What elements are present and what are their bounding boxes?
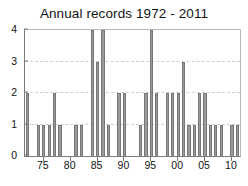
bar-1995: [150, 30, 153, 156]
bar-1999: [171, 93, 174, 156]
bar-1976: [48, 125, 51, 157]
bar-2000: [177, 93, 180, 156]
y-tick-mark-1: [24, 123, 28, 124]
x-tick-mark-85: [97, 157, 98, 161]
x-tick-mark-80: [70, 157, 71, 161]
x-tick-label-95: 95: [144, 160, 156, 171]
bar-1978: [58, 125, 61, 157]
bar-2004: [198, 93, 201, 156]
y-tick-mark-0: [24, 155, 28, 156]
x-tick-mark-00: [177, 157, 178, 161]
bar-1982: [80, 125, 83, 157]
bar-1993: [139, 125, 142, 157]
x-tick-mark-10: [231, 157, 232, 161]
y-tick-mark-4: [24, 29, 28, 30]
bar-2002: [187, 125, 190, 157]
y-tick-label-3: 3: [11, 55, 17, 66]
bar-1986: [101, 30, 104, 156]
bar-1998: [166, 93, 169, 156]
bar-2011: [236, 125, 239, 157]
x-tick-label-75: 75: [37, 160, 49, 171]
bar-1975: [42, 125, 45, 157]
x-axis: 7580859095000510: [24, 160, 241, 180]
bar-1984: [91, 30, 94, 156]
x-tick-mark-90: [123, 157, 124, 161]
bar-1981: [74, 125, 77, 157]
y-tick-mark-3: [24, 60, 28, 61]
x-tick-label-80: 80: [64, 160, 76, 171]
bar-1985: [96, 62, 99, 157]
chart-figure: Annual records 1972 - 2011 01234 7580859…: [0, 0, 248, 186]
bar-2010: [230, 125, 233, 157]
bar-1987: [107, 125, 110, 157]
bar-2007: [214, 125, 217, 157]
bar-1974: [37, 125, 40, 157]
x-tick-mark-05: [204, 157, 205, 161]
bar-1990: [123, 93, 126, 156]
y-axis: 01234: [0, 29, 22, 157]
bar-2001: [182, 62, 185, 157]
bar-2003: [193, 125, 196, 157]
y-tick-mark-2: [24, 92, 28, 93]
x-tick-label-00: 00: [171, 160, 183, 171]
x-tick-mark-95: [150, 157, 151, 161]
bar-1994: [144, 93, 147, 156]
x-tick-label-10: 10: [225, 160, 237, 171]
bar-2008: [220, 125, 223, 157]
x-tick-label-05: 05: [198, 160, 210, 171]
chart-title: Annual records 1972 - 2011: [0, 6, 248, 21]
plot-area: [24, 29, 241, 157]
x-tick-label-85: 85: [91, 160, 103, 171]
y-tick-label-2: 2: [11, 87, 17, 98]
y-tick-label-4: 4: [11, 24, 17, 35]
x-tick-mark-75: [43, 157, 44, 161]
bar-2006: [209, 125, 212, 157]
bar-1989: [117, 93, 120, 156]
bar-1972: [26, 93, 29, 156]
bar-1996: [155, 93, 158, 156]
bars-layer: [25, 30, 240, 156]
x-tick-label-90: 90: [118, 160, 130, 171]
bar-2005: [203, 93, 206, 156]
y-tick-label-1: 1: [11, 118, 17, 129]
bar-1977: [53, 93, 56, 156]
y-tick-label-0: 0: [11, 150, 17, 161]
